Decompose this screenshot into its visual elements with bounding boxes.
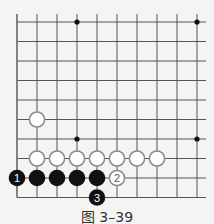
move-number: 2 xyxy=(114,172,120,184)
move-number: 1 xyxy=(14,172,20,184)
black-stone xyxy=(49,170,66,187)
star-point xyxy=(74,19,79,24)
white-stone xyxy=(69,151,84,166)
move-number: 3 xyxy=(94,192,100,204)
go-board: 123 xyxy=(0,0,214,206)
black-stone xyxy=(29,170,46,187)
white-stone xyxy=(29,112,44,127)
star-point xyxy=(194,136,199,141)
star-point xyxy=(194,19,199,24)
white-stone xyxy=(149,151,164,166)
white-stone xyxy=(129,151,144,166)
black-stone: 1 xyxy=(9,170,26,187)
black-stone: 3 xyxy=(89,189,106,206)
star-point xyxy=(74,136,79,141)
figure-caption: 图 3–39 xyxy=(0,206,214,224)
black-stone xyxy=(69,170,86,187)
white-stone xyxy=(29,151,44,166)
black-stone xyxy=(89,170,106,187)
white-stone xyxy=(109,151,124,166)
white-stone xyxy=(89,151,104,166)
white-stone xyxy=(49,151,64,166)
grid-lines xyxy=(17,14,206,198)
white-stone: 2 xyxy=(109,170,124,185)
